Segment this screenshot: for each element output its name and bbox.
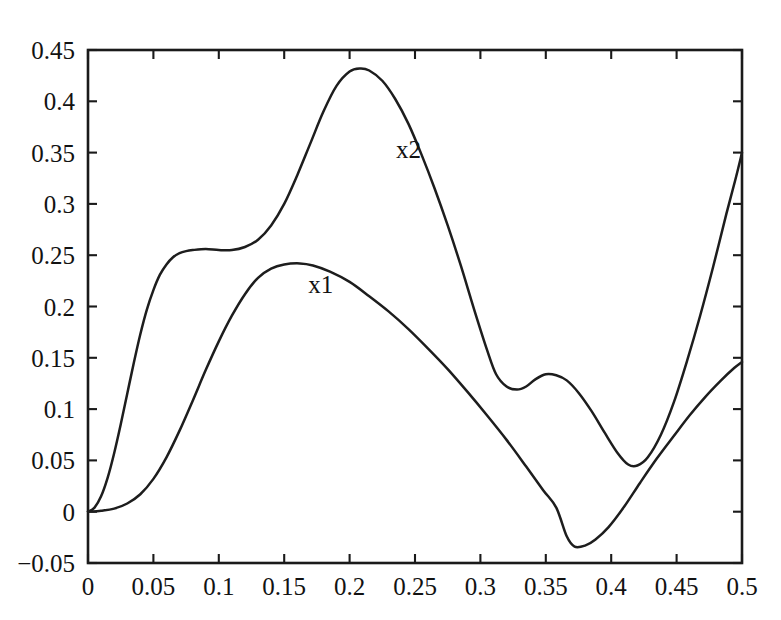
- x-tick-label-1: 0.05: [132, 573, 176, 600]
- chart-figure: 00.050.10.150.20.250.30.350.40.450.5 −0.…: [0, 0, 781, 620]
- y-tick-label-10: 0.45: [31, 37, 75, 64]
- x-tick-label-10: 0.5: [726, 573, 757, 600]
- y-axis-ticks: [88, 50, 97, 563]
- x-axis-tick-labels: 00.050.10.150.20.250.30.350.40.450.5: [82, 573, 758, 600]
- x-tick-label-5: 0.25: [393, 573, 437, 600]
- series-label-x2: x2: [396, 136, 421, 163]
- plot-frame: [88, 50, 742, 563]
- x-tick-label-0: 0: [82, 573, 95, 600]
- y-tick-label-7: 0.3: [44, 191, 75, 218]
- y-axis-tick-labels: −0.0500.050.10.150.20.250.30.350.40.45: [17, 37, 75, 577]
- x-tick-label-4: 0.2: [334, 573, 365, 600]
- y-tick-label-5: 0.2: [44, 294, 75, 321]
- x-tick-label-7: 0.35: [524, 573, 568, 600]
- x-tick-label-8: 0.4: [596, 573, 628, 600]
- x-tick-label-3: 0.15: [262, 573, 306, 600]
- y-tick-label-0: −0.05: [17, 550, 75, 577]
- y-tick-label-4: 0.15: [31, 345, 75, 372]
- top-axis-ticks: [88, 50, 742, 59]
- series-annotations: x2x1: [308, 136, 421, 298]
- y-tick-label-3: 0.1: [44, 396, 75, 423]
- right-axis-ticks: [733, 50, 742, 563]
- x-tick-label-2: 0.1: [203, 573, 234, 600]
- y-tick-label-8: 0.35: [31, 140, 75, 167]
- x-tick-label-6: 0.3: [465, 573, 496, 600]
- x-axis-ticks: [88, 554, 742, 563]
- series-line-x1: [88, 263, 742, 547]
- series-label-x1: x1: [308, 271, 333, 298]
- line-chart: 00.050.10.150.20.250.30.350.40.450.5 −0.…: [0, 0, 781, 620]
- y-tick-label-1: 0: [63, 499, 76, 526]
- y-tick-label-9: 0.4: [44, 88, 76, 115]
- y-tick-label-2: 0.05: [31, 447, 75, 474]
- y-tick-label-6: 0.25: [31, 242, 75, 269]
- x-tick-label-9: 0.45: [655, 573, 699, 600]
